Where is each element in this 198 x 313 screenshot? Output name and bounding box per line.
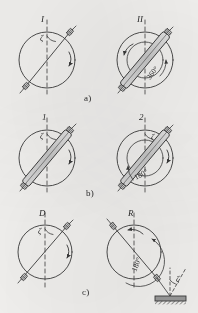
probe-axis xyxy=(26,32,70,86)
figure-sheet: I ζ II 360° 1 ζ 2 180° ζ D ζ R 180° ζ a)… xyxy=(0,0,198,313)
angle-symbol-c-left: ζ xyxy=(38,227,42,236)
panel-b-right xyxy=(117,118,173,195)
detector-plate-hatch xyxy=(155,301,186,304)
row-caption-c: c) xyxy=(82,287,90,297)
panel-label-b-right: 2 xyxy=(139,112,144,122)
rotation-arrow xyxy=(167,150,169,163)
detector-plate xyxy=(155,296,186,301)
panel-label-a-right: II xyxy=(136,14,144,24)
row-caption-a: a) xyxy=(84,93,92,103)
panel-label-c-left: D xyxy=(38,208,46,218)
angle-text-a-right: 360° xyxy=(144,64,160,81)
angle-arc xyxy=(47,134,56,140)
panel-label-c-right: R xyxy=(127,208,134,218)
panel-c-right xyxy=(107,213,186,304)
panel-label-b-left: 1 xyxy=(42,112,47,122)
angle-symbol-a-left: ζ xyxy=(40,34,44,43)
rotation-arrow xyxy=(128,230,143,234)
panel-c-left xyxy=(18,213,73,288)
row-caption-b: b) xyxy=(86,188,94,198)
panel-a-right xyxy=(117,20,173,97)
angle-arc xyxy=(45,229,53,235)
angle-arc xyxy=(47,36,56,42)
diagram-canvas: I ζ II 360° 1 ζ 2 180° ζ D ζ R 180° ζ xyxy=(0,0,198,313)
angle-text-c-right: 180° xyxy=(130,256,144,273)
probe-head-bottom xyxy=(20,273,27,281)
angle-symbol-b-left: ζ xyxy=(40,132,44,141)
panel-b-left xyxy=(19,118,76,195)
panel-label-a-left: I xyxy=(40,14,45,24)
detector-angle-arc xyxy=(170,280,176,284)
detector-assembly xyxy=(155,268,186,304)
panel-a-left xyxy=(19,20,76,97)
ray-from-probe xyxy=(157,278,170,296)
rotation-arrow xyxy=(69,52,71,66)
rotation-arrow xyxy=(67,245,69,258)
rotation-arrow xyxy=(69,150,71,164)
probe-axis xyxy=(24,226,67,276)
